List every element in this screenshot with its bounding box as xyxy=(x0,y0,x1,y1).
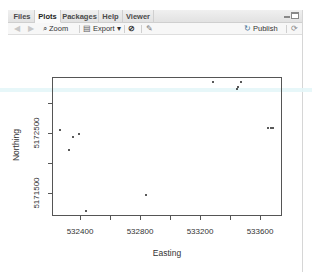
data-point xyxy=(272,127,274,129)
remove-plot-icon[interactable]: ⊘ xyxy=(128,23,135,35)
x-tick-label: 532400 xyxy=(60,227,100,236)
y-axis-title: Northing xyxy=(11,120,21,170)
x-tick xyxy=(170,216,171,220)
plot-frame xyxy=(52,77,282,216)
x-tick-label: 532800 xyxy=(120,227,160,236)
arrow-right-icon[interactable]: ▶ xyxy=(28,23,34,35)
toolbar-divider xyxy=(286,25,287,33)
zoom-label: Zoom xyxy=(49,24,68,33)
tab-plots[interactable]: Plots xyxy=(35,10,61,23)
magnifier-icon: ⌕ xyxy=(43,23,47,35)
x-tick-label: 533200 xyxy=(180,227,220,236)
x-tick xyxy=(140,216,141,220)
zoom-button[interactable]: ⌕Zoom xyxy=(43,23,68,35)
y-tick xyxy=(48,103,52,104)
minimize-pane-icon[interactable] xyxy=(284,11,290,17)
x-tick xyxy=(110,216,111,220)
tab-viewer[interactable]: Viewer xyxy=(123,10,154,23)
toolbar-divider xyxy=(124,25,125,33)
tab-help[interactable]: Help xyxy=(99,10,123,23)
pane-divider[interactable] xyxy=(302,10,303,272)
plots-toolbar: ◀ ▶ ⌕Zoom ▤Export ▾ ⊘ ✎ ↻Publish ⟳ xyxy=(8,23,302,35)
x-tick xyxy=(80,216,81,220)
y-tick xyxy=(48,163,52,164)
arrow-left-icon[interactable]: ◀ xyxy=(14,23,20,35)
x-tick xyxy=(230,216,231,220)
x-tick xyxy=(200,216,201,220)
tab-packages[interactable]: Packages xyxy=(61,10,99,23)
broom-icon[interactable]: ✎ xyxy=(146,23,153,35)
maximize-pane-icon[interactable] xyxy=(291,12,299,19)
publish-button[interactable]: ↻Publish xyxy=(244,23,278,35)
publish-label: Publish xyxy=(253,24,278,33)
y-tick-label: 5171500 xyxy=(32,173,42,213)
y-tick xyxy=(48,193,52,194)
toolbar-divider xyxy=(141,25,142,33)
x-tick xyxy=(260,216,261,220)
y-tick-label: 5172500 xyxy=(32,113,42,153)
image-icon: ▤ xyxy=(83,23,91,35)
export-button[interactable]: ▤Export ▾ xyxy=(83,23,121,35)
tab-files[interactable]: Files xyxy=(10,10,35,23)
x-tick-label: 533600 xyxy=(240,227,280,236)
x-axis-title: Easting xyxy=(147,248,187,258)
pane-tabbar: Files Plots Packages Help Viewer xyxy=(8,10,302,23)
refresh-icon[interactable]: ⟳ xyxy=(291,23,298,35)
publish-icon: ↻ xyxy=(244,23,251,35)
export-label: Export xyxy=(93,24,115,33)
toolbar-divider xyxy=(79,25,80,33)
y-tick xyxy=(48,133,52,134)
chevron-down-icon: ▾ xyxy=(117,24,121,33)
